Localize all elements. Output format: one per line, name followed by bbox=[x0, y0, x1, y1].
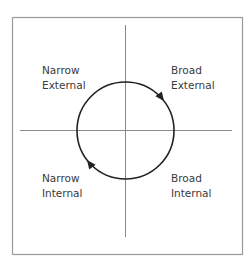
label-line: Broad bbox=[171, 171, 211, 186]
quadrant-label-narrow-external: Narrow External bbox=[42, 63, 86, 93]
diagram-canvas bbox=[0, 0, 250, 266]
frame-border bbox=[13, 18, 243, 255]
quadrant-label-broad-internal: Broad Internal bbox=[171, 171, 211, 201]
label-line: Broad bbox=[171, 63, 215, 78]
label-line: External bbox=[171, 78, 215, 93]
attention-quadrant-diagram: Narrow External Broad External Narrow In… bbox=[0, 0, 250, 266]
label-line: External bbox=[42, 78, 86, 93]
quadrant-label-broad-external: Broad External bbox=[171, 63, 215, 93]
label-line: Internal bbox=[42, 186, 82, 201]
label-line: Narrow bbox=[42, 171, 82, 186]
label-line: Internal bbox=[171, 186, 211, 201]
label-line: Narrow bbox=[42, 63, 86, 78]
quadrant-label-narrow-internal: Narrow Internal bbox=[42, 171, 82, 201]
